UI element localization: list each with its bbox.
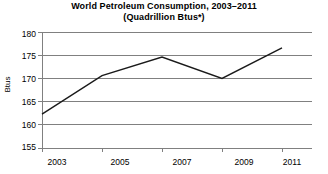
data-series-line — [42, 48, 282, 114]
plot-area — [0, 0, 328, 174]
x-tick-marks-group — [42, 148, 282, 152]
line-chart-figure: World Petroleum Consumption, 2003–2011 (… — [0, 0, 328, 174]
y-tick-marks-group — [38, 32, 42, 148]
gridlines-group — [42, 32, 312, 148]
